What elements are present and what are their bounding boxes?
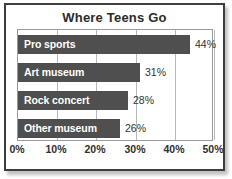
- bar-value-label: 26%: [125, 119, 146, 138]
- bar-value-label: 31%: [145, 63, 166, 82]
- chart-title: Where Teens Go: [6, 10, 223, 25]
- bar-value-label: 44%: [195, 35, 216, 54]
- bar-row: Rock concert28%: [18, 91, 212, 110]
- x-tick-label: 30%: [124, 143, 145, 155]
- x-tick-label: 50%: [202, 143, 223, 155]
- bar-category-label: Rock concert: [24, 91, 89, 110]
- bar-row: Pro sports44%: [18, 35, 212, 54]
- x-tick-label: 20%: [84, 143, 105, 155]
- plot-area: Pro sports44%Art museum31%Rock concert28…: [17, 29, 213, 141]
- chart-frame: Where Teens Go Pro sports44%Art museum31…: [4, 3, 225, 171]
- bar-category-label: Art museum: [24, 63, 84, 82]
- bar-row: Art museum31%: [18, 63, 212, 82]
- x-tick-label: 40%: [163, 143, 184, 155]
- bar-row: Other museum26%: [18, 119, 212, 138]
- x-axis: 0%10%20%30%40%50%: [17, 143, 213, 161]
- bar-category-label: Pro sports: [24, 35, 76, 54]
- bar-value-label: 28%: [133, 91, 154, 110]
- bar-category-label: Other museum: [24, 119, 97, 138]
- x-tick-label: 0%: [9, 143, 24, 155]
- bars-layer: Pro sports44%Art museum31%Rock concert28…: [18, 30, 212, 140]
- x-tick-label: 10%: [45, 143, 66, 155]
